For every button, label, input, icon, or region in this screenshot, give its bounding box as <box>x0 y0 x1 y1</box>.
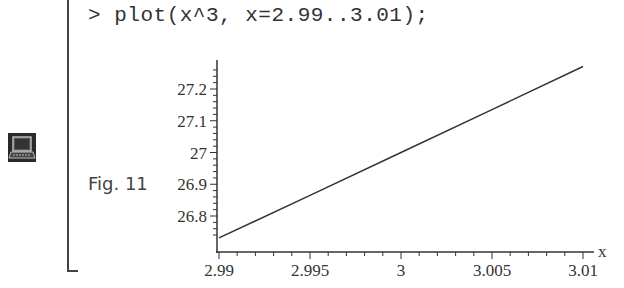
x-axis-label: x <box>598 242 607 261</box>
plot-region[interactable]: 26.826.92727.127.2 2.992.99533.0053.01 x <box>0 0 624 288</box>
y-tick-labels: 26.826.92727.127.2 <box>177 80 207 226</box>
x-tick-label: 3 <box>397 261 406 280</box>
x-tick-labels: 2.992.99533.0053.01 <box>204 261 598 280</box>
y-tick-label: 27.2 <box>177 80 207 99</box>
x-axis <box>216 252 594 259</box>
y-tick-label: 27.1 <box>177 112 207 131</box>
x-tick-label: 3.01 <box>568 261 598 280</box>
x-tick-label: 2.995 <box>291 261 329 280</box>
y-tick-label: 26.9 <box>177 175 207 194</box>
y-tick-label: 27 <box>190 144 208 163</box>
x-tick-label: 3.005 <box>473 261 511 280</box>
y-tick-label: 26.8 <box>177 207 207 226</box>
x-tick-label: 2.99 <box>204 261 234 280</box>
plot-curve <box>219 67 583 238</box>
y-axis <box>210 60 217 253</box>
